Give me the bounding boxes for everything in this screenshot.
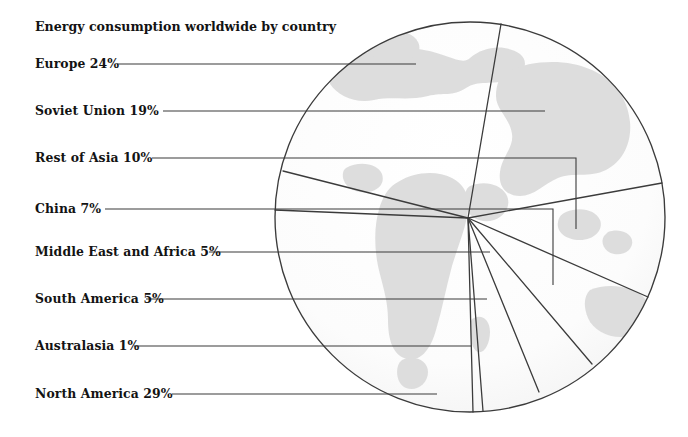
chart-canvas: Energy consumption worldwide by country … [0, 0, 688, 437]
pie-label-soviet-union: Soviet Union 19% [35, 105, 159, 117]
pie-label-europe: Europe 24% [35, 58, 119, 70]
pie-label-china: China 7% [35, 203, 101, 215]
pie-label-rest-of-asia: Rest of Asia 10% [35, 152, 152, 164]
pie-label-australasia: Australasia 1% [35, 340, 139, 352]
pie-label-south-america: South America 5% [35, 293, 164, 305]
pie-label-middle-east-and-africa: Middle East and Africa 5% [35, 246, 221, 258]
chart-title: Energy consumption worldwide by country [35, 21, 336, 34]
pie-label-north-america: North America 29% [35, 388, 173, 400]
